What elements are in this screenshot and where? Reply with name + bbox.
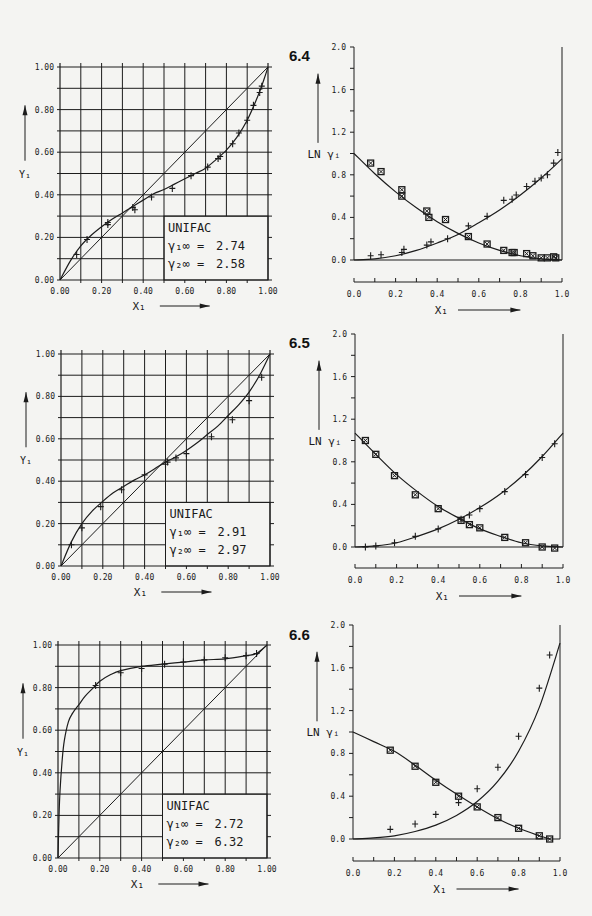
data-point-box — [378, 169, 384, 175]
chart-6-4-xy: 0.000.200.400.600.801.000.000.200.400.60… — [19, 63, 278, 313]
y-tick-label: 0.8 — [333, 458, 348, 467]
data-point-plus — [474, 785, 480, 792]
data-point-box — [362, 438, 368, 444]
y-tick-label: 1.2 — [333, 415, 348, 424]
data-point-plus — [74, 251, 80, 258]
data-point-plus — [378, 251, 384, 258]
data-point-plus — [201, 656, 207, 663]
data-point-plus — [222, 654, 228, 661]
y-axis-label: LN γᵢ — [307, 148, 340, 161]
x-tick-label: 0.60 — [177, 573, 196, 582]
y-tick-label: 0.20 — [33, 811, 52, 820]
series-experimental — [93, 650, 260, 689]
x-tick-label: 0.20 — [90, 865, 109, 874]
x-tick-label: 0.2 — [388, 290, 403, 299]
x-axis-arrow-head — [198, 882, 208, 887]
x-tick-label: 0.2 — [389, 576, 404, 585]
data-point-plus — [412, 533, 418, 540]
y-tick-label: 0.8 — [331, 749, 346, 758]
data-point-box — [516, 825, 522, 831]
data-point-box — [392, 473, 398, 479]
data-point-plus — [513, 192, 519, 199]
data-point-box — [443, 217, 449, 223]
y-tick-label: 1.6 — [332, 86, 347, 95]
x-tick-label: 0.60 — [174, 865, 193, 874]
y-tick-label: 1.2 — [332, 128, 347, 137]
y-tick-label: 0.0 — [331, 835, 346, 844]
y-tick-label: 0.80 — [36, 392, 55, 401]
y-tick-label: 0.0 — [333, 543, 348, 552]
y-axis-arrow-head — [24, 392, 29, 402]
annotation-gamma2-value: 6.32 — [215, 835, 244, 849]
series-ln-gamma1-experimental — [368, 160, 559, 261]
annotation-gamma2-value: 2.58 — [216, 257, 245, 271]
y-tick-label: 2.0 — [333, 330, 348, 339]
chart-6-6-lngamma: 0.00.40.81.21.62.00.00.20.40.60.81.0X₁LN… — [306, 621, 567, 896]
x-axis-label: X₁ — [132, 300, 145, 313]
annotation-gamma1-value: 2.72 — [215, 817, 244, 831]
data-point-box — [552, 545, 558, 551]
data-point-plus — [551, 160, 557, 167]
x-axis-arrow-head — [511, 594, 521, 599]
data-point-plus — [180, 659, 186, 666]
data-point-plus — [243, 652, 249, 659]
x-axis-arrow-head — [200, 304, 210, 309]
x-tick-label: 1.00 — [258, 287, 277, 296]
series-ln-gamma1-unifac — [354, 154, 562, 261]
figure-label-6-4: 6.4 — [289, 47, 310, 64]
x-tick-label: 0.8 — [514, 576, 529, 585]
data-point-plus — [544, 171, 550, 178]
y-tick-label: 0.00 — [33, 854, 52, 863]
data-point-plus — [456, 799, 462, 806]
series-ln-gamma1-unifac — [355, 433, 563, 547]
annotation-gamma1-label: γ₁∞ = — [168, 239, 204, 253]
data-point-plus — [523, 471, 529, 478]
data-point-plus — [547, 651, 553, 658]
annotation-gamma2-label: γ₂∞ = — [170, 543, 206, 557]
data-point-plus — [254, 650, 260, 657]
annotation-gamma1-label: γ₁∞ = — [170, 525, 206, 539]
y-tick-label: 0.0 — [332, 256, 347, 265]
y-axis-label: LN γᵢ — [308, 435, 341, 448]
series-ln-gamma2-experimental — [362, 440, 557, 550]
annotation-method: UNIFAC — [168, 221, 211, 235]
data-point-plus — [373, 542, 379, 549]
data-point-plus — [142, 471, 148, 478]
y-axis-label: LN γᵢ — [306, 726, 339, 739]
data-point-plus — [257, 89, 263, 96]
y-tick-label: 1.6 — [331, 664, 346, 673]
data-point-plus — [495, 764, 501, 771]
data-point-plus — [79, 524, 85, 531]
series-ln-gamma2-unifac — [353, 643, 560, 839]
series-ln-gamma2-experimental — [387, 651, 552, 832]
data-point-plus — [433, 811, 439, 818]
y-tick-label: 0.80 — [33, 684, 52, 693]
x-tick-label: 0.80 — [219, 573, 238, 582]
y-axis-arrow-head — [315, 652, 320, 662]
x-axis-arrow-head — [201, 590, 211, 595]
x-tick-label: 0.0 — [347, 290, 362, 299]
chart-6-6-xy: 0.000.200.400.600.801.000.000.200.400.60… — [17, 641, 277, 891]
y-tick-label: 0.8 — [332, 171, 347, 180]
data-point-box — [412, 492, 418, 498]
x-axis-label: X₁ — [134, 586, 147, 599]
x-axis-label: X₁ — [435, 304, 448, 317]
data-point-plus — [501, 197, 507, 204]
y-tick-label: 0.60 — [35, 148, 54, 157]
x-axis-label: X₁ — [433, 883, 446, 896]
data-point-box — [536, 833, 542, 839]
series-ln-gamma1-experimental — [387, 747, 552, 842]
y-tick-label: 0.20 — [35, 233, 54, 242]
x-tick-label: 1.0 — [556, 576, 571, 585]
annotation-gamma1-label: γ₁∞ = — [167, 817, 203, 831]
x-tick-label: 1.0 — [553, 869, 568, 878]
y-tick-label: 1.2 — [331, 707, 346, 716]
data-point-plus — [536, 685, 542, 692]
data-point-plus — [445, 235, 451, 242]
data-point-box — [474, 804, 480, 810]
data-point-plus — [552, 440, 558, 447]
x-tick-label: 0.8 — [511, 869, 526, 878]
y-tick-label: 0.20 — [36, 520, 55, 529]
y-axis-arrow-head — [316, 74, 321, 84]
y-tick-label: 2.0 — [332, 43, 347, 52]
